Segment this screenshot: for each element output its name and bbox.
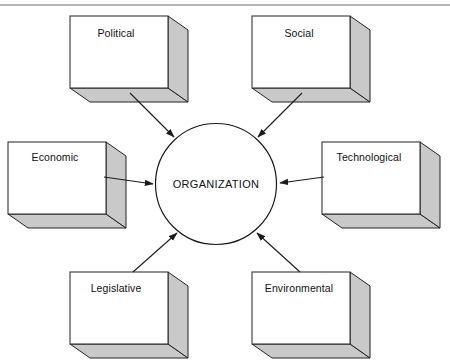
- factor-box-technological[interactable]: Technological: [322, 142, 440, 228]
- box-right-face: [350, 272, 370, 358]
- factor-box-social[interactable]: Social: [252, 16, 370, 102]
- box-right-face: [168, 16, 188, 102]
- arrow-environmental-to-center: [257, 233, 300, 272]
- box-right-face: [168, 272, 188, 358]
- factor-label-social: Social: [284, 27, 313, 39]
- box-right-face: [106, 142, 126, 228]
- box-right-face: [350, 16, 370, 102]
- factor-label-technological: Technological: [337, 151, 402, 163]
- organization-label: ORGANIZATION: [173, 178, 260, 190]
- factor-label-economic: Economic: [32, 151, 79, 163]
- factor-box-legislative[interactable]: Legislative: [70, 272, 188, 358]
- arrow-legislative-to-center: [133, 233, 177, 272]
- center-node[interactable]: ORGANIZATION: [156, 124, 277, 245]
- factor-box-political[interactable]: Political: [70, 16, 188, 102]
- factor-label-legislative: Legislative: [91, 282, 142, 294]
- diagram-canvas: PoliticalSocialEconomicTechnologicalLegi…: [0, 0, 450, 362]
- diagram-svg: PoliticalSocialEconomicTechnologicalLegi…: [0, 0, 450, 362]
- box-right-face: [420, 142, 440, 228]
- arrow-technological-to-center: [280, 177, 324, 183]
- factor-label-political: Political: [97, 27, 134, 39]
- factor-box-environmental[interactable]: Environmental: [252, 272, 370, 358]
- factor-label-environmental: Environmental: [265, 282, 333, 294]
- factor-box-economic[interactable]: Economic: [8, 142, 126, 228]
